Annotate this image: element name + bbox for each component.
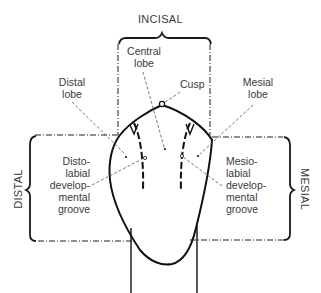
mesiolabial-groove-point [180, 154, 183, 157]
central-lobe-label: Central lobe [124, 45, 164, 69]
mesial-brace [284, 137, 294, 240]
tooth-diagram [0, 0, 321, 293]
distal-lobe-label: Distal lobe [54, 76, 90, 100]
incisal-brace [119, 33, 211, 44]
root-lines [131, 226, 197, 293]
mesiolabial-groove-label: Mesio- labial develop- mental groove [226, 155, 276, 215]
distolabial-groove-point [143, 156, 146, 159]
mesial-lobe-label: Mesial lobe [240, 76, 276, 100]
distal-label: DISTAL [12, 169, 24, 209]
cusp-label: Cusp [180, 78, 205, 90]
mesial-lobe-dot [197, 155, 199, 157]
cusp-point [159, 101, 164, 106]
distolabial-groove-label: Disto- labial develop- mental groove [44, 155, 90, 215]
distal-lobe-dot [125, 156, 127, 158]
mesial-label: MESIAL [299, 168, 311, 210]
incisal-label: INCISAL [138, 13, 183, 25]
distal-brace [26, 136, 36, 241]
central-lobe-dot [164, 148, 166, 150]
